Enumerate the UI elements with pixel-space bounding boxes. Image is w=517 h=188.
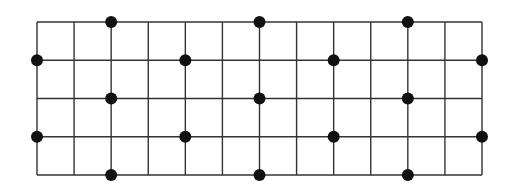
grid-dot [179,54,191,66]
grid-dot [402,16,414,28]
grid-dot [254,169,266,181]
grid-dot [476,131,488,143]
grid-dot [328,54,340,66]
grid-dot [31,131,43,143]
lattice-diagram [0,0,517,188]
grid-dot [254,16,266,28]
grid-dot [105,169,117,181]
grid-dot [31,54,43,66]
grid-dot [105,93,117,105]
grid-dot [254,93,266,105]
grid-dot [179,131,191,143]
grid-dot [105,16,117,28]
grid-dot [402,169,414,181]
grid-dot [328,131,340,143]
grid-dot [476,54,488,66]
grid-dot [402,93,414,105]
